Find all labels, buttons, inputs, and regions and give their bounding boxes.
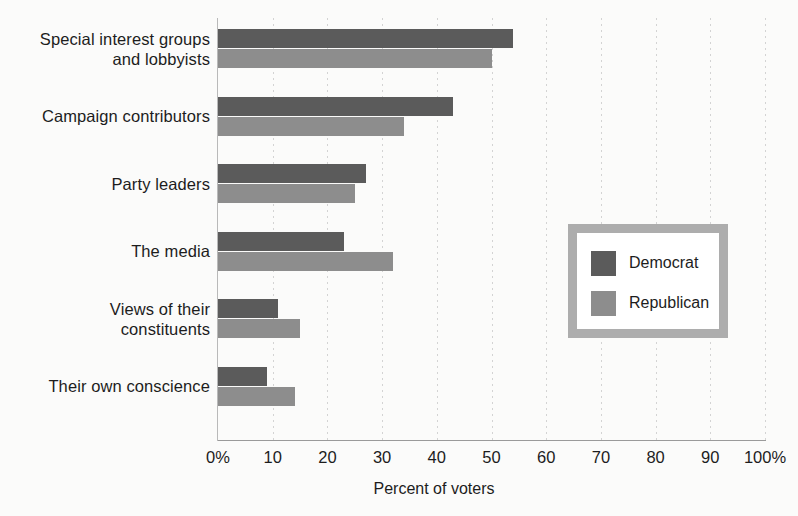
x-axis-line <box>218 440 766 441</box>
bar-democrat <box>218 97 453 116</box>
bar-republican <box>218 319 300 338</box>
legend-swatch-icon <box>591 251 616 276</box>
gridline-50 <box>492 18 493 440</box>
bar-democrat <box>218 164 366 183</box>
x-tick-label: 80 <box>646 447 664 467</box>
x-tick-label: 10 <box>264 447 282 467</box>
gridline-60 <box>546 18 547 440</box>
x-tick-label: 60 <box>537 447 555 467</box>
gridline-20 <box>327 18 328 440</box>
bar-democrat <box>218 367 267 386</box>
x-tick-label: 90 <box>701 447 719 467</box>
bar-republican <box>218 387 295 406</box>
legend-item: Democrat <box>591 243 719 283</box>
x-axis-title: Percent of voters <box>0 480 798 498</box>
category-label: Special interest groups and lobbyists <box>40 29 210 69</box>
x-tick-label: 30 <box>373 447 391 467</box>
legend-swatch-icon <box>591 291 616 316</box>
bar-democrat <box>218 232 344 251</box>
bar-chart: Special interest groups and lobbyistsCam… <box>0 0 798 516</box>
legend-label: Republican <box>629 294 709 312</box>
legend-items: DemocratRepublican <box>577 233 719 329</box>
bar-republican <box>218 252 393 271</box>
bar-republican <box>218 117 404 136</box>
category-label: Views of their constituents <box>110 299 210 339</box>
bar-republican <box>218 49 492 68</box>
gridline-10 <box>273 18 274 440</box>
category-label: The media <box>131 241 210 261</box>
x-tick-label: 20 <box>318 447 336 467</box>
category-label: Party leaders <box>111 174 210 194</box>
x-tick-label: 100% <box>744 447 786 467</box>
legend: DemocratRepublican <box>568 224 728 338</box>
x-tick-label: 50 <box>482 447 500 467</box>
legend-item: Republican <box>591 283 719 323</box>
legend-label: Democrat <box>629 254 698 272</box>
gridline-40 <box>437 18 438 440</box>
gridline-100 <box>765 18 766 440</box>
x-tick-label: 70 <box>592 447 610 467</box>
bar-democrat <box>218 299 278 318</box>
gridline-30 <box>382 18 383 440</box>
x-tick-label: 0% <box>206 447 230 467</box>
bar-democrat <box>218 29 513 48</box>
x-tick-label: 40 <box>428 447 446 467</box>
category-label: Campaign contributors <box>42 106 210 126</box>
bar-republican <box>218 184 355 203</box>
x-axis-title-text: Percent of voters <box>374 480 495 498</box>
category-label: Their own conscience <box>48 376 210 396</box>
